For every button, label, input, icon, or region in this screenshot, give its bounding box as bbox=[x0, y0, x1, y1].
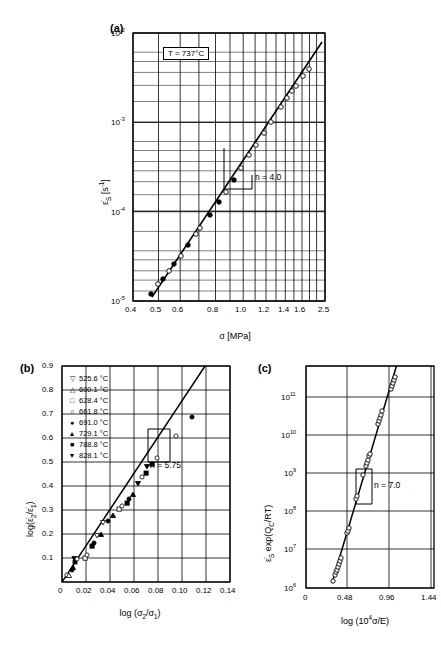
panel-a-frame bbox=[133, 33, 325, 301]
legend-item-5: ▲ 729.1 °C bbox=[66, 428, 108, 439]
up-triangle-open-icon: △ bbox=[66, 384, 78, 395]
panel-c-plot bbox=[250, 352, 441, 648]
panel-a-xtick-4: 1.0 bbox=[235, 305, 246, 314]
panel-c-xtick-2: 0.96 bbox=[379, 593, 395, 602]
panel-c-ytick-1e10: 1010 bbox=[281, 429, 296, 440]
panel-b-xtick-2: 0.04 bbox=[100, 586, 116, 595]
panel-a-temperature-annotation: T = 737°C bbox=[163, 47, 209, 60]
circle-filled-icon: ● bbox=[66, 417, 78, 428]
panel-a-ytick-1e-3: 10-3 bbox=[111, 116, 125, 127]
panel-b-ytick-0.4: 0.4 bbox=[42, 481, 53, 490]
panel-b-ytick-0.9: 0.9 bbox=[42, 361, 53, 370]
panel-a-xtick-6: 1.4 bbox=[278, 305, 289, 314]
square-open-icon: □ bbox=[66, 395, 78, 406]
panel-c-ytick-1e7: 107 bbox=[284, 543, 296, 554]
down-triangle-open-icon: ▽ bbox=[66, 373, 78, 384]
panel-a-ytick-1e-5: 10-5 bbox=[111, 295, 125, 306]
panel-a-xtick-5: 1.2 bbox=[258, 305, 269, 314]
legend-label-2: 628.4 °C bbox=[78, 395, 108, 406]
down-triangle-filled-icon: ▼ bbox=[66, 450, 78, 461]
legend-label-1: 600.1 °C bbox=[78, 384, 108, 395]
panel-b-xtick-1: 0.02 bbox=[76, 586, 92, 595]
panel-b-ytick-0.7: 0.7 bbox=[42, 409, 53, 418]
panel-a-plot bbox=[0, 0, 441, 350]
panel-a-ytick-1e-4: 10-4 bbox=[111, 206, 125, 217]
panel-c-frame bbox=[306, 366, 434, 588]
panel-b-ytick-0.6: 0.6 bbox=[42, 433, 53, 442]
panel-c-ytick-1e9: 109 bbox=[284, 467, 296, 478]
legend-item-6: ■ 788.8 °C bbox=[66, 439, 108, 450]
legend-label-5: 729.1 °C bbox=[78, 428, 108, 439]
panel-b-ytick-0.1: 0.1 bbox=[42, 553, 53, 562]
panel-b-xtick-6: 0.12 bbox=[196, 586, 212, 595]
panel-a-xtick-0: 0.4 bbox=[125, 305, 136, 314]
panel-a-x-grid bbox=[133, 33, 325, 301]
panel-c-ytick-1e8: 108 bbox=[284, 505, 296, 516]
legend-label-0: 525.6 °C bbox=[78, 373, 108, 384]
panel-a-slope-annotation: n = 4.0 bbox=[255, 172, 281, 182]
panel-b-ytick-0.8: 0.8 bbox=[42, 385, 53, 394]
panel-a-xtick-8: 2.5 bbox=[318, 305, 329, 314]
legend-label-4: 691.0 °C bbox=[78, 417, 108, 428]
panel-b: (b) log(ε̇2/ε̇1) log (σ2/σ1) bbox=[0, 352, 250, 648]
panel-c-slope-annotation: n = 7.0 bbox=[374, 480, 400, 490]
up-triangle-filled-icon: ▲ bbox=[66, 428, 78, 439]
panel-a-xtick-2: 0.6 bbox=[172, 305, 183, 314]
legend-item-0: ▽ 525.6 °C bbox=[66, 373, 108, 384]
panel-a-major-y-grid bbox=[133, 33, 325, 301]
panel-a-fit-line bbox=[152, 42, 322, 297]
panel-c-x-grid bbox=[306, 366, 431, 588]
panel-c-xtick-3: 1.44 bbox=[421, 593, 437, 602]
legend-item-4: ● 691.0 °C bbox=[66, 417, 108, 428]
panel-b-xtick-7: 0.14 bbox=[220, 586, 236, 595]
panel-b-ytick-0.2: 0.2 bbox=[42, 529, 53, 538]
legend-label-6: 788.8 °C bbox=[78, 439, 108, 450]
figure-root: (a) ε̇S [s-1] σ [MPa] bbox=[0, 0, 441, 648]
square-filled-icon: ■ bbox=[66, 439, 78, 450]
panel-c: (c) ε̇S exp(QC/RT) log (104σ/E) bbox=[250, 352, 441, 648]
panel-c-ytick-1e6: 106 bbox=[284, 582, 296, 593]
legend-item-7: ▼ 828.1 °C bbox=[66, 450, 108, 461]
panel-c-y-grid bbox=[306, 366, 434, 588]
panel-b-xtick-4: 0.08 bbox=[148, 586, 164, 595]
panel-a-xtick-7: 1.6 bbox=[294, 305, 305, 314]
panel-c-ytick-1e11: 1011 bbox=[281, 391, 296, 402]
panel-a-ytick-1e-2: 10-2 bbox=[111, 27, 125, 38]
legend-label-3: 661.8 °C bbox=[78, 406, 108, 417]
panel-c-xtick-0: 0 bbox=[303, 593, 307, 602]
panel-b-plot bbox=[0, 352, 250, 648]
panel-b-ytick-0.3: 0.3 bbox=[42, 505, 53, 514]
panel-b-ytick-0.5: 0.5 bbox=[42, 457, 53, 466]
panel-b-legend: ▽ 525.6 °C △ 600.1 °C □ 628.4 °C ○ 661.8… bbox=[66, 373, 108, 461]
panel-b-xtick-5: 0.10 bbox=[172, 586, 188, 595]
panel-c-xtick-1: 0.48 bbox=[337, 593, 353, 602]
circle-open-icon: ○ bbox=[66, 406, 78, 417]
panel-a: (a) ε̇S [s-1] σ [MPa] bbox=[0, 0, 441, 350]
panel-b-xtick-0: 0 bbox=[58, 586, 62, 595]
panel-a-xtick-1: 0.5 bbox=[150, 305, 161, 314]
legend-item-3: ○ 661.8 °C bbox=[66, 406, 108, 417]
panel-b-xtick-3: 0.06 bbox=[124, 586, 140, 595]
panel-b-slope-annotation: n = 5.75 bbox=[150, 460, 181, 470]
legend-item-2: □ 628.4 °C bbox=[66, 395, 108, 406]
legend-label-7: 828.1 °C bbox=[78, 450, 108, 461]
panel-a-xtick-3: 0.8 bbox=[207, 305, 218, 314]
legend-item-1: △ 600.1 °C bbox=[66, 384, 108, 395]
